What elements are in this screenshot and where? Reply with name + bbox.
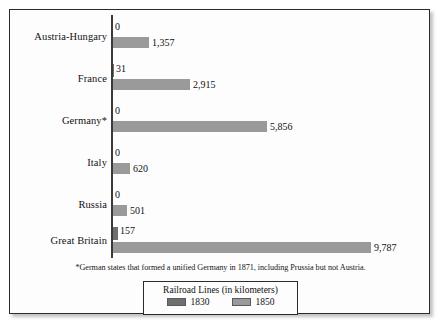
bar-value-1830: 0 [115,147,120,158]
legend-item-1850: 1850 [232,297,275,307]
legend-item-1830: 1830 [167,297,210,307]
category-label: Great Britain [10,235,107,246]
chart-legend: Railroad Lines (in kilometers) 1830 1850 [143,281,298,315]
category-label: Russia [10,199,107,210]
category-label: France [10,73,107,84]
category-label: Italy [10,157,107,168]
bar-value-1830: 0 [115,21,120,32]
legend-label-1850: 1850 [256,297,275,307]
category-label: Austria-Hungary [10,31,107,42]
legend-items: 1830 1850 [144,297,297,307]
bar-row: Great Britain 157 9,787 [10,224,429,264]
bar-1850 [113,205,127,216]
bar-value-1850: 501 [130,205,145,216]
category-label: Germany* [10,115,107,126]
bar-value-1850: 9,787 [374,242,397,253]
bar-1830 [113,227,118,240]
chart-frame: Austria-Hungary 0 1,357 France 31 2,915 … [9,9,430,314]
bar-value-1850: 1,357 [152,37,175,48]
bar-value-1830: 31 [116,63,126,74]
legend-swatch-1850-icon [232,298,251,306]
bar-1850 [113,121,267,132]
bar-row: Germany* 0 5,856 [10,104,429,144]
bar-value-1830: 0 [115,105,120,116]
legend-swatch-1830-icon [167,298,186,306]
bar-value-1830: 0 [115,189,120,200]
bar-1850 [113,242,371,253]
bar-row: Austria-Hungary 0 1,357 [10,20,429,60]
footnote-text: *German states that formed a unified Ger… [10,263,431,272]
bar-value-1850: 2,915 [193,79,216,90]
bar-1830 [113,64,115,77]
legend-label-1830: 1830 [191,297,210,307]
bar-value-1850: 5,856 [270,121,293,132]
legend-title: Railroad Lines (in kilometers) [144,285,297,295]
bar-chart-plot: Austria-Hungary 0 1,357 France 31 2,915 … [10,10,429,313]
bar-row: France 31 2,915 [10,62,429,102]
bar-1850 [113,37,149,48]
bar-1850 [113,79,190,90]
bar-row: Russia 0 501 [10,188,429,228]
bar-row: Italy 0 620 [10,146,429,186]
bar-1850 [113,163,130,174]
bar-value-1830: 157 [120,225,135,236]
bar-value-1850: 620 [133,163,148,174]
